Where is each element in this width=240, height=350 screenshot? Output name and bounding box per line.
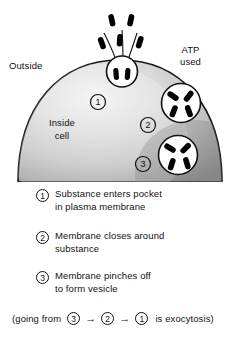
footnote-lead: (going from <box>12 313 61 324</box>
cell-diagram-svg: 1 2 3 <box>0 0 240 182</box>
arrow-right-icon-1: → <box>84 313 97 324</box>
legend-item-1: 1 Substance enters pocket in plasma memb… <box>36 188 162 213</box>
label-inside-cell: Inside cell <box>49 117 75 142</box>
arrow-right-icon-2: → <box>118 313 131 324</box>
footnote-number-1: 1 <box>135 312 148 325</box>
vesicle-closing <box>162 84 201 123</box>
endocytosis-figure: 1 2 3 Outside ATP used Inside cell 1 Sub… <box>0 0 240 350</box>
exocytosis-footnote: (going from 3 → 2 → 1 is exocytosis) <box>12 312 214 325</box>
legend-number-3: 3 <box>36 271 49 284</box>
vesicle-pinched <box>159 136 198 175</box>
legend-number-1: 1 <box>36 189 49 202</box>
substance-particles-outside <box>97 14 144 51</box>
diagram-marker-3-label: 3 <box>140 159 145 169</box>
legend: 1 Substance enters pocket in plasma memb… <box>0 182 240 350</box>
label-outside: Outside <box>9 60 42 72</box>
legend-text-1: Substance enters pocket in plasma membra… <box>55 188 162 213</box>
cell-diagram: 1 2 3 Outside ATP used Inside cell <box>0 0 240 182</box>
diagram-marker-2-label: 2 <box>145 120 150 130</box>
legend-number-2: 2 <box>36 231 49 244</box>
label-atp-used: ATP used <box>180 44 201 67</box>
legend-text-2: Membrane closes around substance <box>55 230 164 255</box>
legend-item-3: 3 Membrane pinches off to form vesicle <box>36 270 151 295</box>
footnote-number-3: 3 <box>67 312 80 325</box>
footnote-tail: is exocytosis) <box>155 313 213 324</box>
legend-text-3: Membrane pinches off to form vesicle <box>55 270 151 295</box>
membrane-pocket <box>107 56 138 87</box>
footnote-number-2: 2 <box>101 312 114 325</box>
legend-item-2: 2 Membrane closes around substance <box>36 230 164 255</box>
diagram-marker-1-label: 1 <box>95 97 100 107</box>
